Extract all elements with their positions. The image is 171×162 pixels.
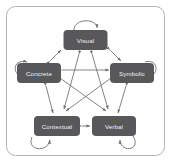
node-contextual-label: Contextual [42,123,73,130]
node-visual[interactable]: Visual [64,30,108,50]
node-symbolic-label: Symbolic [119,70,145,77]
node-visual-label: Visual [77,37,94,44]
node-verbal[interactable]: Verbal [92,116,136,136]
diagram-container: Visual Concrete Symbolic Contextual Verb… [0,0,171,162]
node-concrete[interactable]: Concrete [17,63,61,83]
node-symbolic[interactable]: Symbolic [110,63,154,83]
node-concrete-label: Concrete [26,70,52,77]
pentagon-interaction-diagram: Visual Concrete Symbolic Contextual Verb… [0,0,171,162]
node-verbal-label: Verbal [105,123,123,130]
node-contextual[interactable]: Contextual [34,116,80,136]
